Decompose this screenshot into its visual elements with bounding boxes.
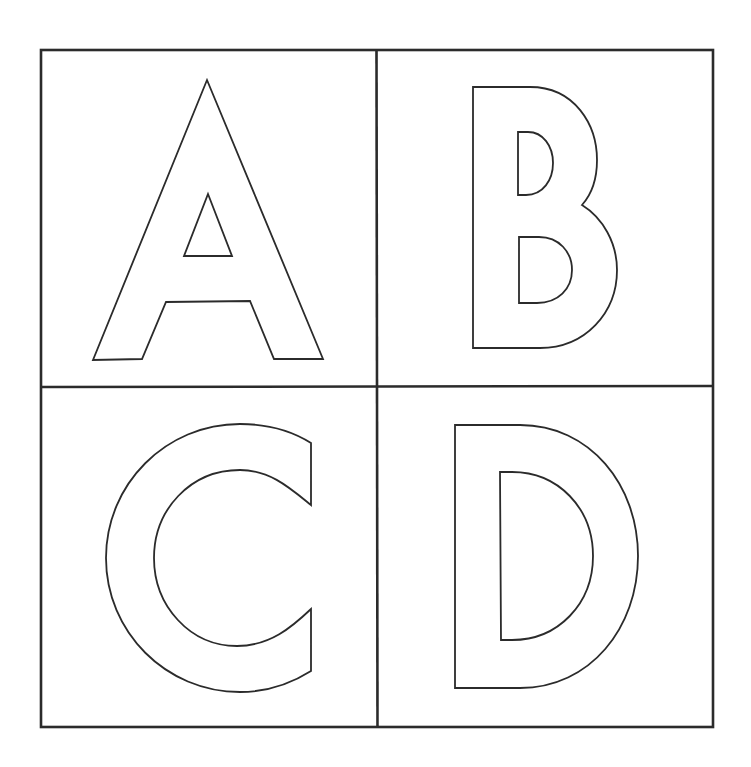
cell-a [93, 80, 323, 360]
cell-c [106, 424, 311, 692]
letter-b-outline [473, 87, 617, 348]
worksheet-canvas [0, 0, 751, 767]
cell-d [455, 425, 638, 688]
letter-worksheet: Alphabet letter outlines A B C D A B C D [0, 0, 751, 767]
letter-b-lower-counter [519, 237, 572, 303]
cell-b [473, 87, 617, 348]
vertical-divider [377, 50, 378, 727]
letter-c-outline [106, 424, 311, 692]
horizontal-divider [41, 386, 713, 387]
